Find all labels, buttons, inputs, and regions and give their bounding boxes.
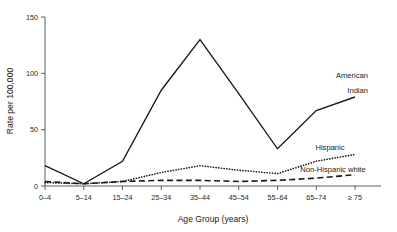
y-tick-label: 0 (34, 182, 38, 191)
x-tick-label: 45–54 (229, 193, 249, 202)
line-chart: 050100150 Rate per 100,000 0–45–1415–242… (0, 0, 397, 232)
series-group (45, 40, 355, 184)
y-axis: 050100150 Rate per 100,000 (5, 13, 45, 191)
series-line-american-indian (45, 40, 355, 184)
x-tick-label: 5–14 (76, 193, 92, 202)
x-tick-label: 0–4 (39, 193, 51, 202)
x-tick-group: 0–45–1415–2425–3435–4445–5455–6465–74≥ 7… (39, 186, 362, 202)
series-annotation-non-hispanic-white: Non-Hispanic white (300, 165, 365, 174)
series-annotation-american: American (336, 71, 368, 80)
x-tick-label: 55–64 (268, 193, 288, 202)
x-tick-label: ≥ 75 (348, 193, 362, 202)
annotation-group: AmericanIndianHispanicNon-Hispanic white (300, 71, 368, 174)
chart-figure: 050100150 Rate per 100,000 0–45–1415–242… (0, 0, 397, 232)
y-tick-group: 050100150 (26, 13, 45, 191)
series-annotation-indian: Indian (347, 86, 368, 95)
series-annotation-hispanic: Hispanic (315, 143, 344, 152)
x-tick-label: 65–74 (306, 193, 326, 202)
y-tick-label: 100 (26, 69, 38, 78)
y-axis-title: Rate per 100,000 (5, 68, 15, 135)
x-tick-label: 15–24 (113, 193, 133, 202)
x-tick-label: 35–44 (190, 193, 210, 202)
y-tick-label: 50 (30, 125, 38, 134)
x-axis: 0–45–1415–2425–3435–4445–5455–6465–74≥ 7… (39, 186, 381, 224)
x-axis-title: Age Group (years) (178, 214, 249, 224)
y-tick-label: 150 (26, 13, 38, 22)
x-tick-label: 25–34 (151, 193, 171, 202)
